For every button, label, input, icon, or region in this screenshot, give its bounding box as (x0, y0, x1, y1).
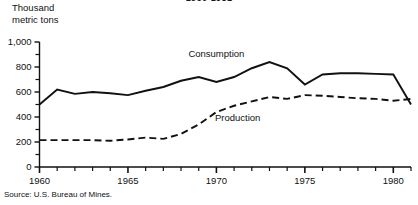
source-note: Source: U.S. Bureau of Mines. (4, 190, 112, 199)
y-tick-label: 0 (26, 161, 31, 172)
x-tick-label: 1970 (196, 175, 236, 186)
x-tick-label: 1980 (373, 175, 413, 186)
x-tick-label: 1975 (285, 175, 325, 186)
y-tick-label: 400 (16, 111, 32, 122)
chart-figure: 1960-1981 Thousand metric tons 020040060… (0, 0, 418, 205)
series-label-production: Production (215, 112, 260, 123)
chart-axes (35, 42, 412, 173)
series-label-consumption: Consumption (188, 48, 244, 59)
y-tick-label: 600 (16, 86, 32, 97)
x-tick-label: 1960 (20, 175, 60, 186)
x-tick-label: 1965 (108, 175, 148, 186)
y-tick-label: 1,000 (8, 36, 32, 47)
chart-series (40, 62, 412, 141)
y-tick-label: 200 (16, 136, 32, 147)
y-tick-label: 800 (16, 61, 32, 72)
